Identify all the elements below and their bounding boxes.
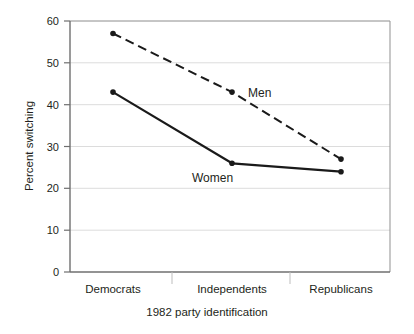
x-category-label-republicans: Republicans: [309, 283, 373, 295]
x-axis-title: 1982 party identification: [146, 306, 267, 318]
series-women-point-independents: [229, 161, 235, 167]
y-tick-label-0: 0: [53, 266, 59, 278]
x-category-label-democrats: Democrats: [85, 283, 141, 295]
y-axis-title: Percent switching: [23, 101, 35, 191]
series-men-point-independents: [229, 89, 235, 95]
y-tick-label-40: 40: [47, 99, 59, 111]
series-annotation-men: Men: [248, 86, 271, 100]
line-chart: 60 50 40 30 20 10 0 Democrats Independen…: [0, 0, 414, 334]
y-tick-label-30: 30: [47, 141, 59, 153]
series-men-point-republicans: [338, 156, 344, 162]
series-men-point-democrats: [110, 31, 116, 37]
chart-figure: 60 50 40 30 20 10 0 Democrats Independen…: [0, 0, 414, 334]
x-category-label-independents: Independents: [197, 283, 267, 295]
y-tick-label-10: 10: [47, 224, 59, 236]
y-tick-label-20: 20: [47, 182, 59, 194]
series-annotation-women: Women: [192, 171, 233, 185]
x-category-labels: Democrats Independents Republicans: [85, 283, 373, 295]
y-tick-label-60: 60: [47, 15, 59, 27]
series-women-point-republicans: [338, 169, 344, 175]
series-women-point-democrats: [110, 89, 116, 95]
y-tick-label-50: 50: [47, 57, 59, 69]
